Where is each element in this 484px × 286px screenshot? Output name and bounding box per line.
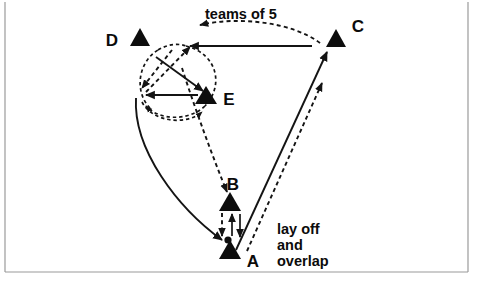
diagram-canvas: D C E B A teams of 5 lay off and overlap [0,0,484,286]
player-label-a: A [247,252,259,271]
ball-icon [224,236,231,243]
pass-c-to-d-curve [200,21,320,43]
annotation-lay-off: lay off [277,221,320,237]
annotation-overlap: overlap [277,253,329,269]
annotation-and: and [277,237,303,253]
run-e-to-a-curve [136,98,222,240]
rotation-loop-dashed [140,44,216,117]
player-marker-b[interactable] [219,192,241,211]
page-frame [5,2,468,272]
player-label-e: E [223,90,234,109]
player-label-d: D [106,31,118,50]
player-marker-d[interactable] [130,28,150,46]
pass-e-to-b-curve [182,68,227,192]
annotation-teams-of-5: teams of 5 [205,6,277,22]
player-marker-c[interactable] [326,29,346,47]
a-b-exchange [222,213,240,237]
soccer-drill-diagram: D C E B A teams of 5 lay off and overlap [0,0,484,286]
player-label-b: B [227,175,239,194]
player-label-c: C [352,17,364,36]
